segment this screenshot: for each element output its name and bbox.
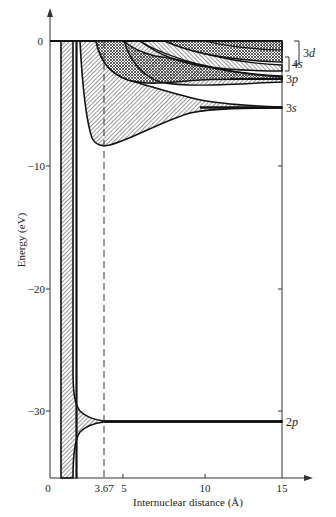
energy-band-diagram: 0 −10 −20 −30 Energy (eV) 0 3.67 5 10 15… [0, 0, 336, 517]
level-labels: 3d 4s 3p 3s 2p [285, 41, 316, 429]
x-tick-5: 5 [121, 482, 127, 494]
y-axis-arrow-icon [47, 8, 53, 17]
y-axis: 0 −10 −20 −30 Energy (eV) [15, 8, 53, 478]
x-tick-0: 0 [45, 482, 51, 494]
y-tick-minus30: −30 [28, 405, 46, 417]
y-tick-minus10: −10 [28, 160, 46, 172]
x-tick-15: 15 [277, 482, 289, 494]
label-3d: 3d [303, 46, 316, 60]
x-tick-10: 10 [200, 482, 212, 494]
label-2p: 2p [286, 415, 298, 429]
y-tick-minus20: −20 [28, 283, 46, 295]
label-3s: 3s [286, 101, 297, 115]
y-tick-0: 0 [38, 35, 44, 47]
x-tick-3-67: 3.67 [94, 482, 114, 494]
x-axis-label: Internuclear distance (Å) [133, 496, 243, 509]
label-4s: 4s [292, 57, 303, 71]
x-axis: 0 3.67 5 10 15 Internuclear distance (Å) [45, 474, 313, 509]
y-axis-label: Energy (eV) [15, 212, 28, 267]
band-inner-strip [76, 41, 77, 478]
x-axis-arrow-icon [304, 475, 313, 481]
label-3p: 3p [286, 72, 298, 86]
bracket-4s [285, 57, 289, 71]
